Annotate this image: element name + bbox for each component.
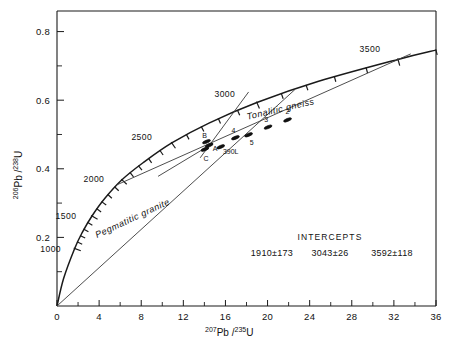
- intercepts-value-3: 3592±118: [371, 248, 413, 258]
- x-tick-label: 12: [178, 311, 189, 322]
- data-point-5[interactable]: [244, 132, 253, 138]
- data-point-label-390L: 390L: [223, 148, 239, 155]
- x-tick-label: 32: [388, 311, 399, 322]
- concordia-age-tick: [148, 158, 151, 163]
- concordia-age-tick: [87, 222, 92, 225]
- concordia-age-tick: [130, 172, 134, 176]
- intercepts-title: INTERCEPTS: [298, 232, 363, 242]
- concordia-age-label: 3000: [215, 89, 236, 99]
- concordia-diagram-figure: 048121620242832360.20.40.60.810001500200…: [0, 0, 450, 347]
- concordia-age-tick: [102, 202, 107, 205]
- x-tick-label: 24: [304, 311, 315, 322]
- intercepts-value-1: 1910±173: [251, 248, 293, 258]
- x-tick-label: 28: [346, 311, 357, 322]
- concordia-age-tick: [108, 194, 112, 198]
- x-axis-title: 207Pb /235U: [205, 326, 253, 338]
- intercepts-value-2: 3043±26: [311, 248, 348, 258]
- concordia-age-tick: [171, 142, 175, 148]
- data-point-label-2: 2: [286, 108, 290, 115]
- chord-line-pegmatitic-granite: [57, 90, 295, 306]
- concordia-age-label: 1500: [56, 211, 77, 221]
- concordia-age-tick: [96, 209, 101, 212]
- data-point-label-3: 3: [264, 116, 268, 123]
- x-tick-label: 0: [54, 311, 60, 322]
- y-tick-label: 0.6: [36, 95, 50, 106]
- y-axis-title: 206Pb /238U: [12, 151, 24, 199]
- x-tick-label: 8: [138, 311, 144, 322]
- concordia-age-label: 2000: [84, 174, 105, 184]
- y-tick-label: 0.8: [36, 26, 50, 37]
- x-tick-label: 16: [220, 311, 231, 322]
- concordia-curve: [57, 50, 436, 306]
- data-point-3[interactable]: [264, 124, 273, 130]
- concordia-age-tick: [186, 134, 189, 139]
- x-tick-label: 36: [430, 311, 441, 322]
- concordia-age-tick: [160, 150, 163, 155]
- concordia-age-label: 3500: [360, 44, 381, 54]
- concordia-age-tick: [114, 187, 118, 191]
- data-point-label-C: C: [203, 155, 208, 162]
- data-point-label-4: 4: [231, 127, 235, 134]
- concordia-age-label: 1000: [40, 244, 61, 254]
- plot-canvas: 048121620242832360.20.40.60.810001500200…: [0, 0, 450, 347]
- concordia-age-tick: [281, 93, 283, 98]
- y-tick-label: 0.4: [36, 163, 50, 174]
- data-point-2[interactable]: [283, 117, 292, 123]
- data-point-label-5: 5: [250, 139, 254, 146]
- data-point-4[interactable]: [231, 135, 240, 141]
- concordia-age-tick: [138, 166, 142, 170]
- x-tick-label: 4: [96, 311, 102, 322]
- concordia-age-tick: [201, 126, 204, 131]
- chord-label-pegmatitic-granite: Pegmatitic granite: [94, 197, 172, 240]
- data-point-label-B: B: [202, 132, 207, 139]
- chord-label-tonalitic-gneiss: Tonalitic gneiss: [246, 96, 316, 121]
- concordia-age-label: 2500: [131, 132, 152, 142]
- y-tick-label: 0.2: [36, 232, 50, 243]
- concordia-age-tick: [237, 110, 239, 115]
- concordia-age-tick: [91, 216, 97, 220]
- x-tick-label: 20: [262, 311, 273, 322]
- concordia-age-tick: [218, 118, 220, 123]
